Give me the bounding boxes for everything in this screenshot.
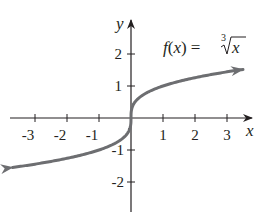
function-label: f(x) = 3 x [163,32,246,57]
x-axis-label: x [245,121,254,140]
radicand: x [231,38,240,57]
y-tick-label: 1 [115,78,123,94]
x-tick-label: -2 [54,127,67,143]
root-index: 3 [221,32,226,43]
cube-root-graph: -3 -2 -1 1 2 3 2 1 -1 -2 y x f(x) = 3 x [0,0,270,212]
x-tick-label: -1 [86,127,99,143]
x-tick-label: 3 [223,127,231,143]
x-tick-label: 1 [159,127,167,143]
y-tick-label: 2 [115,46,123,62]
y-tick-label: -2 [112,174,125,190]
x-tick-label: 2 [191,127,199,143]
svg-text:f(x) =: f(x) = [163,38,200,57]
y-axis-label: y [114,14,124,33]
x-tick-label: -3 [22,127,35,143]
